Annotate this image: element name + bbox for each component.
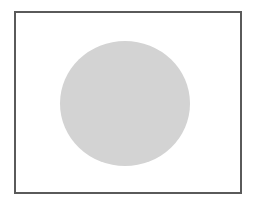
gray-circle	[60, 41, 190, 166]
